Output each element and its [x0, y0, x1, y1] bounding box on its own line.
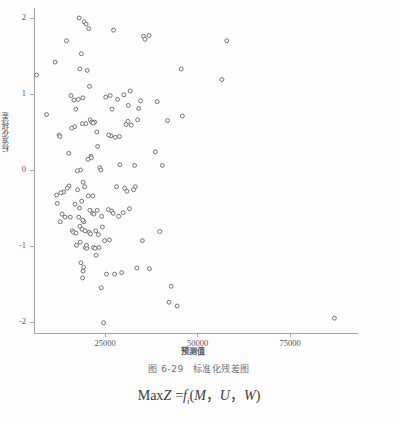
- scatter-point: [79, 52, 83, 56]
- scatter-point: [80, 122, 84, 126]
- scatter-point: [147, 267, 151, 271]
- scatter-point: [132, 188, 136, 192]
- x-tick-label: 25000: [83, 338, 127, 348]
- y-tick-label: 0: [12, 164, 26, 174]
- scatter-point: [104, 95, 108, 99]
- scatter-point: [99, 168, 103, 172]
- formula-equals: =: [175, 388, 183, 403]
- formula-arg-m: M: [194, 388, 206, 403]
- scatter-point: [113, 272, 117, 276]
- scatter-point: [121, 211, 125, 215]
- scatter-point: [58, 220, 62, 224]
- scatter-point: [81, 276, 85, 280]
- scatter-point: [126, 103, 130, 107]
- scatter-point: [74, 107, 78, 111]
- formula-line: MaxZ=fi(M，U，W): [0, 384, 398, 406]
- scatter-point: [106, 208, 110, 212]
- scatter-point: [118, 163, 122, 167]
- scatter-point: [59, 191, 63, 195]
- scatter-point: [102, 321, 106, 325]
- formula-arg-w: W: [244, 388, 256, 403]
- scatter-point: [80, 199, 84, 203]
- scatter-point: [87, 27, 91, 31]
- scatter-point: [65, 186, 69, 190]
- formula-comma-1: ，: [206, 388, 220, 403]
- scatter-point: [72, 98, 76, 102]
- scatter-point: [81, 269, 85, 273]
- caption-number: 图 6-29: [148, 364, 183, 374]
- y-axis-title: 标准化残差: [1, 112, 17, 152]
- scatter-point: [91, 121, 95, 125]
- scatter-point: [116, 97, 120, 101]
- scatter-point: [77, 16, 81, 20]
- scatter-point: [91, 194, 95, 198]
- scatter-point: [126, 119, 130, 123]
- scatter-point: [96, 144, 100, 148]
- scatter-point: [65, 39, 69, 43]
- scatter-point: [167, 300, 171, 304]
- scatter-point: [169, 284, 173, 288]
- scatter-point: [140, 239, 144, 243]
- scatter-point: [179, 67, 183, 71]
- scatter-point: [139, 99, 143, 103]
- scatter-point: [95, 208, 99, 212]
- scatter-point: [105, 272, 109, 276]
- scatter-point: [76, 188, 80, 192]
- x-tick-label: 75000: [268, 338, 312, 348]
- scatter-point: [107, 133, 111, 137]
- scatter-point: [115, 185, 119, 189]
- scatter-point: [112, 28, 116, 32]
- scatter-point: [81, 96, 85, 100]
- scatter-point: [135, 266, 139, 270]
- scatter-point: [137, 106, 141, 110]
- formula-lhs: Max: [138, 388, 164, 403]
- y-tick-label: -1: [12, 240, 26, 250]
- scatter-point: [78, 224, 82, 228]
- scatter-point: [175, 304, 179, 308]
- residual-scatter-figure: 标准化残差 预测值 -2-1012250005000075000: [0, 0, 398, 358]
- scatter-point: [111, 211, 115, 215]
- scatter-point: [110, 107, 114, 111]
- scatter-point: [155, 100, 159, 104]
- scatter-point: [95, 130, 99, 134]
- scatter-point: [122, 93, 126, 97]
- y-tick-label: 1: [12, 88, 26, 98]
- scatter-point: [92, 212, 96, 216]
- formula-arg-u: U: [220, 388, 230, 403]
- scatter-point: [166, 119, 170, 123]
- scatter-point: [89, 232, 93, 236]
- scatter-plot-svg: [0, 0, 398, 358]
- scatter-point: [79, 261, 83, 265]
- scatter-point: [99, 286, 103, 290]
- scatter-point: [69, 94, 73, 98]
- scatter-point: [117, 214, 121, 218]
- scatter-point: [75, 243, 79, 247]
- scatter-point: [97, 246, 101, 250]
- scatter-point: [53, 60, 57, 64]
- scatter-point: [129, 123, 133, 127]
- scatter-point: [225, 39, 229, 43]
- scatter-point: [85, 243, 89, 247]
- scatter-point: [113, 135, 117, 139]
- scatter-point: [77, 215, 81, 219]
- scatter-point: [75, 169, 79, 173]
- scatter-point: [136, 118, 140, 122]
- scatter-point: [58, 135, 62, 139]
- caption-text: 标准化残差图: [193, 364, 250, 374]
- scatter-point: [85, 68, 89, 72]
- scatter-point: [70, 126, 74, 130]
- scatter-point: [55, 201, 59, 205]
- scatter-point: [107, 238, 111, 242]
- scatter-point: [153, 150, 157, 154]
- scatter-point: [78, 240, 82, 244]
- scatter-point: [81, 218, 85, 222]
- scatter-point: [63, 215, 67, 219]
- scatter-point: [160, 163, 164, 167]
- scatter-point: [86, 157, 90, 161]
- scatter-point: [94, 229, 98, 233]
- scatter-points: [35, 16, 337, 325]
- scatter-point: [78, 67, 82, 71]
- scatter-point: [128, 89, 132, 93]
- scatter-point: [158, 230, 162, 234]
- scatter-point: [84, 22, 88, 26]
